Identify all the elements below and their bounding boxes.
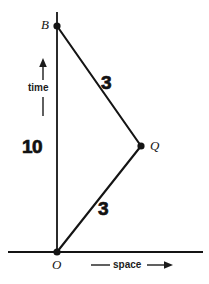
- point-label-b: B: [41, 18, 49, 31]
- arrow-up-icon: [39, 58, 47, 67]
- segment-length-label-lower: 3: [98, 199, 108, 218]
- point-marker-q: [137, 142, 144, 149]
- segment-length-label-upper: 3: [101, 73, 111, 92]
- time-axis-label: time: [28, 83, 49, 93]
- segment-b-q: [57, 26, 141, 146]
- point-marker-o: [53, 248, 60, 255]
- spacetime-diagram: B Q O 3 10 3 time space: [0, 0, 209, 284]
- point-marker-b: [53, 22, 60, 29]
- point-label-o: O: [52, 258, 61, 271]
- arrow-right-icon: [164, 261, 173, 269]
- point-label-q: Q: [150, 139, 159, 152]
- space-axis-label: space: [113, 260, 141, 270]
- segment-length-label-vertical: 10: [22, 137, 42, 156]
